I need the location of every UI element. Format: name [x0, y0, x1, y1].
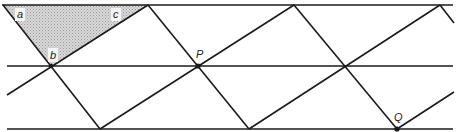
- diagonal-down-4: [440, 5, 454, 23]
- label-Q: Q: [394, 111, 403, 123]
- label-a: a: [17, 8, 23, 20]
- label-c: c: [113, 8, 119, 20]
- point-b: [49, 64, 53, 68]
- diagonal-up-3: [249, 5, 440, 129]
- reflection-diagram: a c b P Q: [0, 0, 460, 132]
- label-P: P: [196, 48, 204, 60]
- point-Q: [394, 126, 399, 131]
- diagonal-up-4: [397, 92, 454, 129]
- label-b: b: [50, 49, 56, 61]
- point-P: [195, 63, 200, 68]
